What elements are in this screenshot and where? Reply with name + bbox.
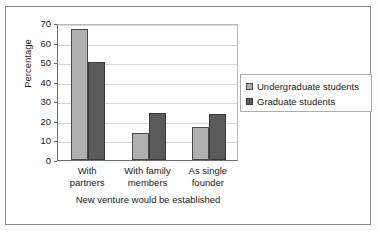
y-axis-tick-label: 70 [25,19,51,29]
y-axis-tick-label: 40 [25,78,51,88]
chart-figure: Percentage 010203040506070 WithpartnersW… [0,0,379,232]
y-axis-tick-label: 20 [25,117,51,127]
legend-swatch-undergraduate-icon [246,83,253,90]
bar [192,127,209,160]
y-axis-tick-label: 30 [25,97,51,107]
bar [71,29,88,160]
gridline [58,25,237,26]
bar [209,114,226,160]
legend-item[interactable]: Undergraduate students [246,79,371,94]
legend-label: Undergraduate students [257,81,359,92]
legend-swatch-graduate-icon [246,98,253,105]
y-axis-tick-label: 10 [25,136,51,146]
plot-area [57,24,238,161]
y-axis-tick-label: 60 [25,39,51,49]
y-axis-tick-mark [54,161,57,162]
bar [149,113,166,160]
bar [132,133,149,160]
bar [88,62,105,160]
legend-item[interactable]: Graduate students [246,94,371,109]
legend-label: Graduate students [257,96,335,107]
x-axis-label-line: As single [168,165,248,177]
x-axis-category-label: As singlefounder [168,165,248,188]
x-axis-title: New venture would be established [38,194,258,205]
x-axis-label-line: founder [168,177,248,189]
chart-legend: Undergraduate studentsGraduate students [240,74,372,112]
y-axis-tick-label: 50 [25,58,51,68]
